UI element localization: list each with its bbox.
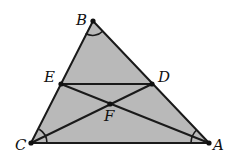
triangle-abc-fill (31, 21, 209, 143)
label-f: F (103, 107, 115, 125)
point-d (149, 81, 154, 86)
label-b: B (75, 11, 87, 29)
point-b (90, 18, 95, 23)
label-e: E (43, 68, 55, 86)
label-a: A (211, 136, 224, 154)
label-d: D (157, 68, 170, 86)
point-a (206, 140, 211, 145)
point-f (107, 101, 112, 106)
geometry-diagram: B E D F C A (0, 0, 238, 161)
point-c (28, 140, 33, 145)
label-c: C (15, 136, 27, 154)
point-e (58, 81, 63, 86)
